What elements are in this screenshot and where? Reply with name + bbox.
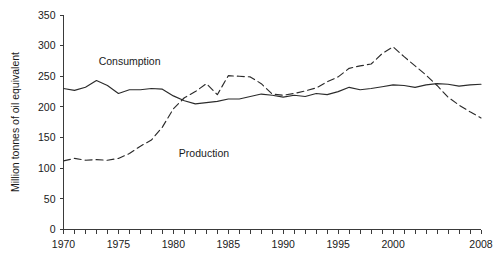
series-annotations: ConsumptionProduction <box>99 55 230 158</box>
y-axis-title-group: Million tonnes of oil equivalent <box>9 52 21 192</box>
x-tick-label: 1980 <box>162 238 186 250</box>
x-axis-ticks: 19701975198019851990199520002008 <box>52 230 493 250</box>
line-chart: Million tonnes of oil equivalent 0501001… <box>0 0 498 263</box>
x-tick-label: 1990 <box>272 238 296 250</box>
x-tick-label: 1985 <box>217 238 241 250</box>
y-tick-label: 300 <box>38 39 56 51</box>
y-tick-label: 200 <box>38 101 56 113</box>
x-tick-label: 1975 <box>107 238 131 250</box>
x-tick-label: 1995 <box>326 238 350 250</box>
y-tick-label: 100 <box>38 162 56 174</box>
series-line-consumption <box>64 81 482 104</box>
y-tick-label: 350 <box>38 9 56 21</box>
series-label-production: Production <box>179 147 229 159</box>
y-axis-title: Million tonnes of oil equivalent <box>9 52 21 192</box>
x-tick-label: 2000 <box>381 238 405 250</box>
series-label-consumption: Consumption <box>99 55 161 67</box>
y-tick-label: 250 <box>38 70 56 82</box>
y-tick-label: 150 <box>38 131 56 143</box>
x-tick-label: 1970 <box>52 238 76 250</box>
y-tick-label: 0 <box>50 223 56 235</box>
y-tick-label: 50 <box>44 193 56 205</box>
y-axis-ticks: 050100150200250300350 <box>38 9 64 236</box>
x-tick-label: 2008 <box>469 238 493 250</box>
chart-container: Million tonnes of oil equivalent 0501001… <box>0 0 498 263</box>
